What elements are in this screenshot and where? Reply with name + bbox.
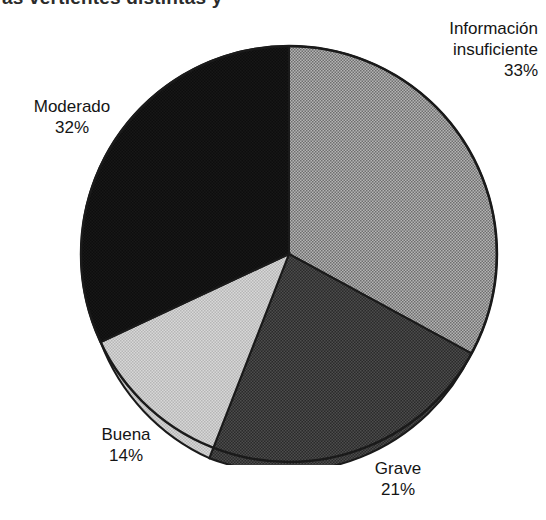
chart-title-cropped: as vertientes distintas y [0, 0, 546, 9]
page-title: as vertientes distintas y [2, 0, 222, 9]
slice-label-informacion-insuficiente: Información insuficiente 33% [449, 18, 538, 81]
slice-value-grave: 21% [352, 479, 444, 500]
slice-label-line2: insuficiente [453, 40, 538, 59]
slice-value-moderado: 32% [12, 117, 132, 138]
slice-label-buena: Buena 14% [78, 424, 174, 466]
slice-label-name: Moderado [34, 97, 111, 116]
slice-label-name: Grave [375, 459, 421, 478]
pie-graphic [78, 43, 500, 465]
slice-label-moderado: Moderado 32% [12, 96, 132, 138]
slice-label-name: Buena [101, 425, 150, 444]
slice-label-grave: Grave 21% [352, 458, 444, 500]
pie-chart-figure: as vertientes distintas y [0, 0, 546, 520]
slice-label-line1: Información [449, 19, 538, 38]
slice-value-buena: 14% [78, 445, 174, 466]
slice-value-informacion-insuficiente: 33% [449, 60, 538, 81]
pie-svg [78, 43, 500, 465]
